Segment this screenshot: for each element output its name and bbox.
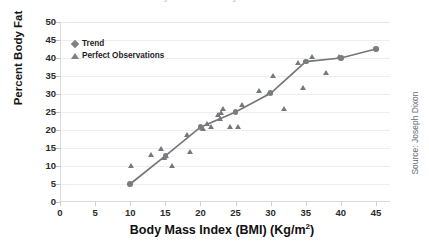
observation-point xyxy=(184,132,190,137)
observation-point xyxy=(270,73,276,78)
trend-point xyxy=(268,90,274,96)
x-tick-label: 30 xyxy=(258,207,284,218)
x-tick-label: 0 xyxy=(47,207,73,218)
observation-point xyxy=(187,149,193,154)
x-tick-label: 15 xyxy=(152,207,178,218)
diamond-icon xyxy=(68,41,82,47)
observation-point xyxy=(128,163,134,168)
x-tick xyxy=(200,202,201,206)
observation-point xyxy=(217,116,223,121)
legend-label-observations: Perfect Observations xyxy=(82,51,164,60)
x-tick xyxy=(271,202,272,206)
x-tick-label: 45 xyxy=(363,207,389,218)
x-tick-label: 20 xyxy=(187,207,213,218)
x-axis-title: Body Mass Index (BMI) (Kg/m2) xyxy=(52,222,392,237)
x-axis-tick-labels: 051015202530354045 xyxy=(60,207,400,221)
observation-point xyxy=(158,146,164,151)
observation-point xyxy=(309,54,315,59)
legend-item-trend: Trend xyxy=(68,38,164,49)
observation-point xyxy=(300,85,306,90)
observation-point xyxy=(148,152,154,157)
observation-point xyxy=(256,88,262,93)
x-tick-label: 25 xyxy=(223,207,249,218)
x-tick-label: 40 xyxy=(328,207,354,218)
x-tick-label: 35 xyxy=(293,207,319,218)
x-tick-label: 5 xyxy=(82,207,108,218)
x-tick xyxy=(60,202,61,206)
y-tick-label: 35 xyxy=(36,71,56,81)
x-tick xyxy=(341,202,342,206)
y-tick-label: 40 xyxy=(36,53,56,63)
observation-point xyxy=(227,124,233,129)
observation-point xyxy=(281,106,287,111)
x-tick xyxy=(306,202,307,206)
trend-point xyxy=(163,153,169,159)
y-tick-label: 15 xyxy=(36,143,56,153)
y-tick-label: 10 xyxy=(36,161,56,171)
legend-item-observations: Perfect Observations xyxy=(68,50,164,61)
observation-point xyxy=(218,110,224,115)
observation-point xyxy=(220,106,226,111)
chart-legend: Trend Perfect Observations xyxy=(68,38,164,61)
source-note: Source: Joseph Dixon xyxy=(410,73,420,193)
trend-point xyxy=(373,46,379,52)
x-tick xyxy=(236,202,237,206)
trend-point xyxy=(233,109,239,115)
y-tick-label: 50 xyxy=(36,17,56,27)
trend-point xyxy=(127,181,133,187)
observation-point xyxy=(323,70,329,75)
y-tick-label: 45 xyxy=(36,35,56,45)
x-tick xyxy=(130,202,131,206)
trend-point xyxy=(198,124,204,130)
observation-point xyxy=(239,102,245,107)
triangle-icon xyxy=(68,53,82,59)
x-tick xyxy=(165,202,166,206)
y-tick-label: 30 xyxy=(36,89,56,99)
observation-point xyxy=(169,163,175,168)
chart-title-cutoff: Percent Body Fat versus Body Mass Index … xyxy=(46,0,392,9)
y-tick-label: 0 xyxy=(36,197,56,207)
observation-point xyxy=(295,60,301,65)
y-axis-title: Percent Body Fat xyxy=(12,0,24,138)
trend-point xyxy=(303,59,309,65)
y-tick-label: 20 xyxy=(36,125,56,135)
x-tick xyxy=(95,202,96,206)
x-tick-label: 10 xyxy=(117,207,143,218)
observation-point xyxy=(235,124,241,129)
y-tick-label: 5 xyxy=(36,179,56,189)
y-tick-label: 25 xyxy=(36,107,56,117)
trend-point xyxy=(338,55,344,61)
x-tick xyxy=(376,202,377,206)
observation-point xyxy=(208,124,214,129)
legend-label-trend: Trend xyxy=(82,39,104,48)
chart-figure: Percent Body Fat versus Body Mass Index … xyxy=(0,0,429,250)
